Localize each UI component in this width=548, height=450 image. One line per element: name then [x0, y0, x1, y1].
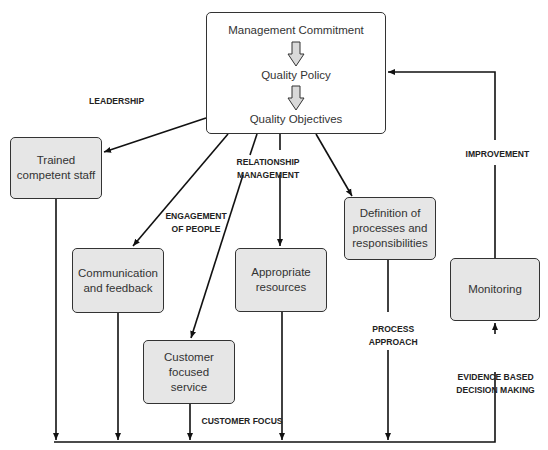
management-commitment-text: Management Commitment	[207, 23, 385, 38]
relationship-management-label: RELATIONSHIP MANAGEMENT	[237, 155, 300, 181]
evidence-based-decision-label: EVIDENCE BASED DECISION MAKING	[456, 370, 534, 396]
customer-service-box: Customer focused service	[143, 340, 235, 404]
resources-box: Appropriate resources	[235, 248, 327, 312]
monitoring-box: Monitoring	[450, 258, 540, 321]
quality-management-box: Management Commitment Quality Policy Qua…	[206, 12, 386, 134]
engagement-of-people-label: ENGAGEMENT OF PEOPLE	[165, 209, 226, 235]
down-arrow-icon	[287, 85, 305, 111]
quality-policy-text: Quality Policy	[207, 68, 385, 83]
improvement-label: IMPROVEMENT	[466, 147, 530, 160]
processes-box: Definition of processes and responsibili…	[344, 197, 436, 260]
trained-staff-text: Trained competent staff	[11, 153, 101, 183]
trained-staff-box: Trained competent staff	[10, 137, 102, 199]
process-approach-label: PROCESS APPROACH	[369, 322, 418, 348]
resources-text: Appropriate resources	[236, 265, 326, 295]
processes-text: Definition of processes and responsibili…	[345, 206, 435, 251]
monitoring-text: Monitoring	[468, 282, 522, 297]
down-arrow-icon	[287, 41, 305, 67]
leadership-label: LEADERSHIP	[89, 94, 144, 107]
quality-objectives-text: Quality Objectives	[207, 112, 385, 127]
customer-service-text: Customer focused service	[144, 350, 234, 395]
communication-text: Communication and feedback	[72, 266, 164, 296]
customer-focus-label: CUSTOMER FOCUS	[202, 414, 283, 427]
communication-box: Communication and feedback	[72, 248, 164, 313]
